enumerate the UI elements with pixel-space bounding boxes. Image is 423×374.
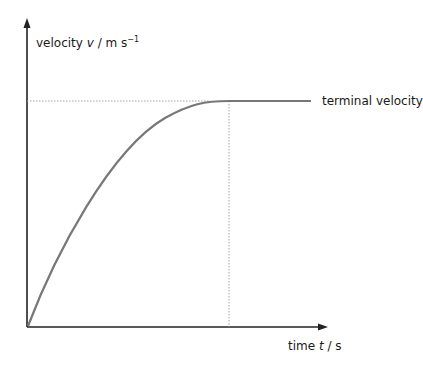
y-axis-label: velocity v / m s−1 xyxy=(36,36,139,49)
y-axis-arrow-icon xyxy=(24,18,31,28)
x-label-unit: / s xyxy=(324,339,342,353)
y-label-exponent: −1 xyxy=(127,35,139,44)
x-label-text: time xyxy=(288,339,319,353)
terminal-velocity-label: terminal velocity xyxy=(322,95,423,107)
velocity-curve xyxy=(28,101,311,326)
x-axis-label: time t / s xyxy=(288,340,342,352)
x-axis-arrow-icon xyxy=(318,324,328,331)
y-label-unit: / m s xyxy=(94,36,127,50)
y-label-text: velocity xyxy=(36,36,87,50)
y-label-symbol: v xyxy=(87,36,94,50)
